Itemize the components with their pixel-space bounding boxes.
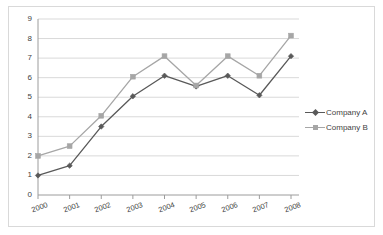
legend-swatch	[305, 107, 325, 118]
y-axis-tick-label: 4	[18, 113, 32, 121]
square-marker-icon	[313, 125, 318, 130]
diamond-marker-icon	[311, 108, 318, 115]
y-axis-tick-label: 2	[18, 152, 32, 160]
y-axis-tick-label: 7	[18, 54, 32, 62]
chart-frame: 0123456789 20002001200220032004200520062…	[8, 6, 375, 227]
y-axis-tick-label: 5	[18, 93, 32, 101]
y-axis-tick-label: 8	[18, 35, 32, 43]
series-company-b	[36, 33, 294, 158]
series-company-a	[35, 53, 293, 178]
legend-label: Company B	[325, 123, 368, 132]
data-point	[35, 173, 40, 178]
data-point	[36, 153, 41, 158]
data-point	[130, 74, 135, 79]
chart-canvas: 0123456789 20002001200220032004200520062…	[9, 7, 374, 226]
data-point	[194, 83, 199, 88]
legend-item-company-b[interactable]: Company B	[305, 120, 381, 135]
legend-item-company-a[interactable]: Company A	[305, 105, 381, 120]
legend-swatch	[305, 122, 325, 133]
data-point	[257, 73, 262, 78]
y-axis-tick-label: 0	[18, 191, 32, 199]
axis-lines	[38, 19, 299, 199]
legend-label: Company A	[325, 108, 367, 117]
y-axis-tick-label: 6	[18, 74, 32, 82]
y-axis-tick-label: 3	[18, 132, 32, 140]
data-point	[225, 54, 230, 59]
data-point	[289, 33, 294, 38]
data-point	[162, 54, 167, 59]
data-point	[99, 113, 104, 118]
chart-legend: Company ACompany B	[305, 105, 381, 135]
data-point	[67, 144, 72, 149]
y-axis-tick-label: 9	[18, 15, 32, 23]
y-axis-tick-label: 1	[18, 171, 32, 179]
